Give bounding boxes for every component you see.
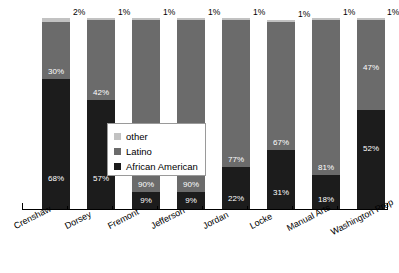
segment-label-african-american: 31% bbox=[267, 188, 295, 197]
segment-label-latino: 42% bbox=[87, 88, 115, 97]
bar-manual-arts[interactable]: 1% 81% 18% bbox=[312, 18, 340, 209]
legend-swatch-latino-icon bbox=[114, 148, 121, 155]
legend-item-latino[interactable]: Latino bbox=[114, 144, 205, 159]
bar-segment-latino[interactable]: 77% bbox=[222, 20, 250, 167]
bar-dorsey[interactable]: 1% 42% 57% bbox=[87, 18, 115, 209]
legend-swatch-african-american-icon bbox=[114, 163, 121, 170]
x-axis-left-cap bbox=[22, 203, 23, 210]
x-axis-label-locke: Locke bbox=[248, 211, 274, 231]
legend-label-latino: Latino bbox=[126, 146, 152, 157]
legend-item-other[interactable]: other bbox=[114, 129, 205, 144]
legend-label-other: other bbox=[126, 131, 148, 142]
segment-label-latino: 81% bbox=[312, 163, 340, 172]
segment-label-other: 2% bbox=[73, 7, 85, 17]
segment-label-other: 1% bbox=[343, 7, 355, 17]
bar-segment-african-american[interactable]: 31% bbox=[267, 150, 295, 209]
bar-crenshaw[interactable]: 2% 30% 68% bbox=[42, 18, 70, 209]
x-axis-tick bbox=[67, 206, 68, 210]
segment-label-other: 1% bbox=[253, 7, 265, 17]
segment-label-latino: 90% bbox=[177, 180, 205, 189]
segment-label-other: 1% bbox=[387, 7, 399, 17]
legend: other Latino African American bbox=[107, 123, 206, 176]
x-axis-tick bbox=[202, 206, 203, 210]
legend-label-african-american: African American bbox=[126, 161, 198, 172]
x-axis-label-fremont: Fremont bbox=[106, 207, 140, 231]
x-axis-line bbox=[22, 209, 388, 210]
segment-label-latino: 47% bbox=[357, 63, 385, 72]
x-axis-tick bbox=[337, 206, 338, 210]
segment-label-other: 1% bbox=[163, 7, 175, 17]
segment-label-african-american: 68% bbox=[42, 174, 70, 183]
bar-segment-african-american[interactable]: 68% bbox=[42, 79, 70, 209]
segment-label-african-american: 9% bbox=[132, 196, 160, 205]
bar-segment-african-american[interactable]: 22% bbox=[222, 167, 250, 209]
segment-label-latino: 30% bbox=[42, 67, 70, 76]
x-axis-tick bbox=[157, 206, 158, 210]
segment-label-latino: 77% bbox=[222, 155, 250, 164]
bar-locke[interactable]: 1% 67% 31% bbox=[267, 18, 295, 209]
segment-label-african-american: 9% bbox=[177, 196, 205, 205]
stacked-bar-chart: 2% 30% 68% 1% 42% 57% 1% bbox=[0, 0, 399, 273]
x-axis-label-jordan: Jordan bbox=[201, 210, 230, 231]
x-axis-tick bbox=[247, 206, 248, 210]
x-axis-tick bbox=[112, 206, 113, 210]
x-axis-tick bbox=[292, 206, 293, 210]
bar-fremont[interactable]: 1% 90% 9% bbox=[132, 18, 160, 209]
segment-label-other: 1% bbox=[118, 7, 130, 17]
bar-jefferson[interactable]: 1% 90% 9% bbox=[177, 18, 205, 209]
bar-segment-african-american[interactable]: 52% bbox=[357, 110, 385, 209]
legend-item-african-american[interactable]: African American bbox=[114, 159, 205, 174]
x-axis-label-dorsey: Dorsey bbox=[63, 209, 93, 231]
legend-swatch-other-icon bbox=[114, 133, 121, 140]
segment-label-other: 1% bbox=[208, 7, 220, 17]
bar-segment-latino[interactable]: 81% bbox=[312, 20, 340, 175]
bar-segment-latino[interactable]: 30% bbox=[42, 22, 70, 79]
bar-segment-latino[interactable]: 47% bbox=[357, 20, 385, 110]
segment-label-african-american: 52% bbox=[357, 144, 385, 153]
bar-segment-latino[interactable]: 42% bbox=[87, 20, 115, 100]
plot-area: 2% 30% 68% 1% 42% 57% 1% bbox=[22, 8, 388, 209]
bar-segment-latino[interactable]: 67% bbox=[267, 22, 295, 150]
segment-label-african-american: 22% bbox=[222, 194, 250, 203]
bar-washington-prep[interactable]: 1% 47% 52% bbox=[357, 18, 385, 209]
segment-label-latino: 67% bbox=[267, 138, 295, 147]
segment-label-other: 1% bbox=[298, 9, 310, 19]
bar-jordan[interactable]: 1% 77% 22% bbox=[222, 18, 250, 209]
segment-label-latino: 90% bbox=[132, 180, 160, 189]
